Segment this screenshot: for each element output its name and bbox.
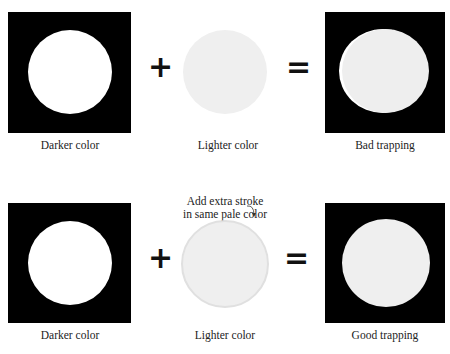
label-lighter-color-top: Lighter color [158,139,298,151]
equals-sign: = [284,243,309,273]
dark-square-top [8,12,131,133]
light-circle-misregistered [342,29,429,113]
label-darker-color-top: Darker color [0,139,140,151]
label-lighter-color-bottom: Lighter color [155,329,295,341]
label-darker-color-bottom: Darker color [0,329,140,341]
light-circle-top [183,30,267,114]
equals-sign: = [286,52,311,82]
annotation-extra-stroke: Add extra stroke in same pale color [155,195,295,221]
plus-sign: + [148,243,173,273]
light-circle-trapped [342,219,430,307]
label-good-trapping: Good trapping [315,329,450,341]
result-square-good [325,203,445,323]
light-circle-stroked [181,220,269,308]
plus-sign: + [148,52,173,82]
annotation-arrow-icon [246,203,258,219]
result-square-bad [325,12,445,133]
label-bad-trapping: Bad trapping [315,139,450,151]
knockout-circle [28,221,112,305]
dark-square-bottom [8,203,131,323]
knockout-circle [28,30,112,114]
annotation-line-1: Add extra stroke [155,195,295,208]
